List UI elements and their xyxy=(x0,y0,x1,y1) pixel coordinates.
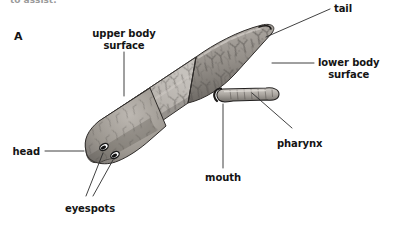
label-head: head xyxy=(8,146,40,158)
label-eyespots: eyespots xyxy=(56,203,124,215)
label-lower-body-surface-line1: lower body xyxy=(318,57,379,68)
label-lower-body-surface: lower body surface xyxy=(318,57,379,80)
label-upper-body-surface: upper body surface xyxy=(86,28,162,51)
label-mouth: mouth xyxy=(199,172,247,184)
label-lower-body-surface-line2: surface xyxy=(318,69,379,81)
planarian-anatomy-figure xyxy=(0,0,393,225)
label-tail: tail xyxy=(334,3,352,15)
pharynx-structure xyxy=(217,88,279,102)
label-upper-body-surface-line1: upper body xyxy=(92,28,155,39)
tail-leader xyxy=(266,9,330,37)
label-pharynx: pharynx xyxy=(277,138,322,150)
panel-label-a: A xyxy=(14,30,23,43)
eyespots-leader-2 xyxy=(93,160,113,196)
cropped-header-text: to assist. xyxy=(10,0,57,5)
label-upper-body-surface-line2: surface xyxy=(103,40,144,51)
